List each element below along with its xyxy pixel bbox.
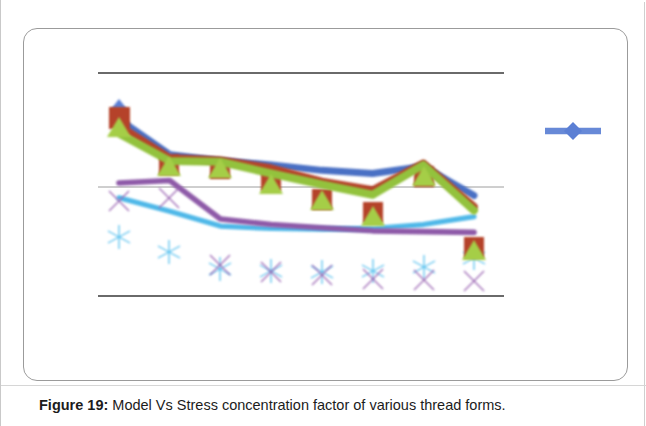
diamond-marker	[564, 122, 582, 140]
asterisk-marker	[158, 240, 180, 264]
x-marker	[464, 271, 484, 291]
series-3-triangle	[107, 117, 486, 260]
asterisk-marker	[413, 255, 435, 279]
x-marker	[159, 188, 179, 208]
triangle-marker	[107, 117, 486, 260]
page-scan-rule	[1, 385, 646, 386]
series-5-asterisk	[108, 198, 485, 284]
legend-series-1-key[interactable]	[539, 117, 609, 145]
figure-caption: Figure 19: Model Vs Stress concentration…	[39, 396, 639, 414]
line-chart	[24, 29, 629, 382]
chart-legend[interactable]	[539, 117, 609, 145]
asterisk-marker	[311, 260, 333, 284]
chart-plot-area	[24, 29, 629, 382]
page-top-edge	[1, 0, 646, 2]
figure-caption-text: Model Vs Stress concentration factor of …	[108, 397, 505, 413]
asterisk-marker	[108, 225, 130, 249]
figure-caption-label: Figure 19:	[39, 397, 108, 413]
series-4-purple	[109, 181, 484, 291]
asterisk-marker	[209, 257, 231, 281]
figure-chart-card	[23, 28, 628, 381]
